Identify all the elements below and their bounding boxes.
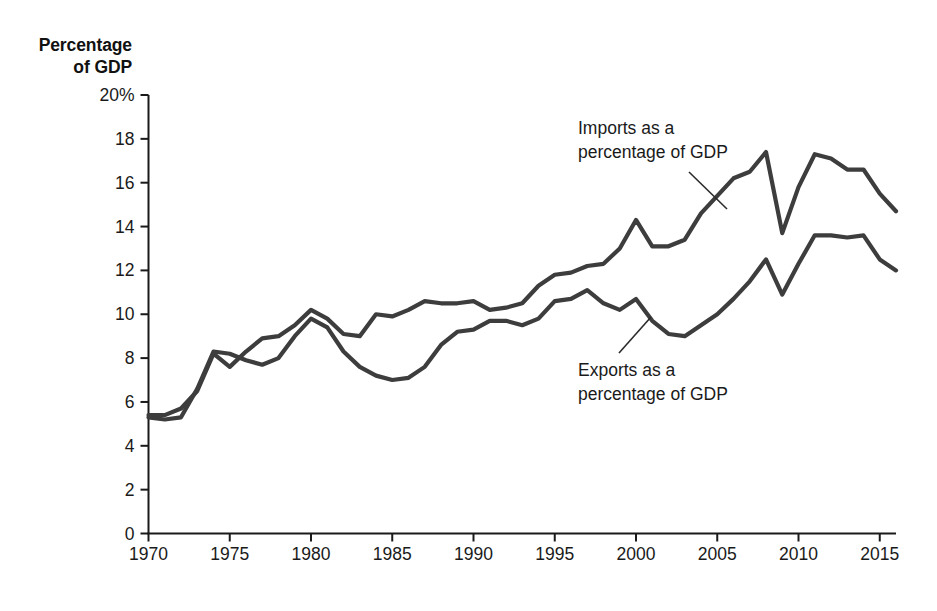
y-tick-label: 12 <box>79 261 135 279</box>
x-axis-ticks <box>149 534 880 542</box>
annotation-imports-line-1: Imports as a <box>578 118 674 138</box>
y-tick-label: 14 <box>79 218 135 236</box>
y-axis-ticks <box>141 95 149 534</box>
data-series-group <box>149 152 897 419</box>
annotation-imports-line-2: percentage of GDP <box>578 142 728 162</box>
y-axis-title-line-1: Percentage <box>39 35 132 55</box>
chart-figure: Percentageof GDP Imports as apercentage … <box>0 0 937 611</box>
x-tick-label: 1995 <box>520 545 590 563</box>
annotation-exports-line-1: Exports as a <box>578 360 675 380</box>
axis-frame <box>148 95 897 534</box>
x-tick-label: 1985 <box>357 545 427 563</box>
y-tick-label: 18 <box>79 130 135 148</box>
annotation-leader-lines <box>619 172 727 353</box>
series-line-exports <box>149 235 897 419</box>
x-tick-label: 2000 <box>601 545 671 563</box>
annotation-imports-label: Imports as apercentage of GDP <box>578 116 728 164</box>
x-tick-label: 1990 <box>439 545 509 563</box>
x-tick-label: 1980 <box>276 545 346 563</box>
leader-line-exports <box>619 317 651 353</box>
y-tick-label: 20% <box>79 86 135 104</box>
x-tick-label: 1975 <box>195 545 265 563</box>
y-tick-label: 4 <box>79 437 135 455</box>
y-tick-label: 2 <box>79 481 135 499</box>
y-tick-label: 6 <box>79 393 135 411</box>
x-tick-label: 2005 <box>682 545 752 563</box>
x-tick-label: 2010 <box>764 545 834 563</box>
y-tick-label: 8 <box>79 349 135 367</box>
y-axis-title: Percentageof GDP <box>22 34 132 78</box>
annotation-exports-label: Exports as apercentage of GDP <box>578 358 728 406</box>
y-axis-title-line-2: of GDP <box>73 57 132 77</box>
y-tick-label: 0 <box>79 525 135 543</box>
annotation-exports-line-2: percentage of GDP <box>578 384 728 404</box>
x-tick-label: 1970 <box>114 545 184 563</box>
series-line-imports <box>149 152 897 415</box>
y-tick-label: 10 <box>79 305 135 323</box>
x-tick-label: 2015 <box>845 545 915 563</box>
plot-area <box>0 0 937 611</box>
y-tick-label: 16 <box>79 174 135 192</box>
